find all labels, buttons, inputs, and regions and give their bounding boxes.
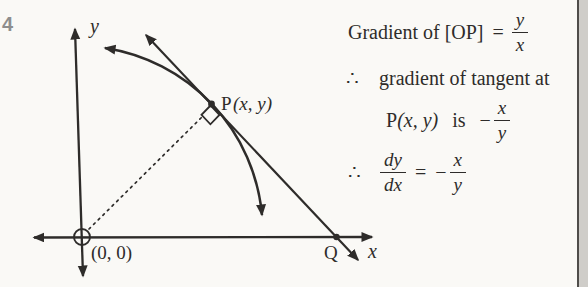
therefore-symbol: ∴	[346, 66, 359, 90]
tangent-line	[146, 35, 358, 260]
fraction-numerator: y	[512, 10, 528, 33]
p-label-name: P	[386, 109, 397, 132]
derivation-line-3: P (x, y) is − x y	[386, 95, 510, 145]
derivation-line-4: ∴ dy dx = − x y	[348, 147, 466, 197]
fraction-denominator: x	[512, 33, 528, 55]
gradient-op-text: Gradient of [OP]	[348, 21, 484, 44]
p-label-args: (x, y)	[397, 109, 438, 132]
fraction-x-over-y: x y	[494, 98, 510, 143]
gradient-tangent-text: gradient of tangent at	[379, 67, 550, 90]
equals-sign: =	[415, 161, 426, 184]
radius-op-dotted-line	[89, 115, 204, 229]
fraction-numerator: dy	[380, 150, 406, 173]
point-p-dot	[208, 101, 215, 108]
x-axis-label: x	[367, 240, 377, 262]
fraction-dy-over-dx: dy dx	[380, 150, 406, 195]
derivation-line-2: ∴ gradient of tangent at	[346, 64, 550, 92]
origin-label: (0, 0)	[91, 242, 132, 264]
fraction-denominator: y	[450, 173, 466, 195]
fraction-numerator: x	[450, 150, 466, 173]
scanned-textbook-page: 4 y x (0, 0) P (x, y) Q	[0, 0, 588, 287]
point-p-label-name: P	[221, 93, 232, 114]
page-edge-strip	[579, 0, 588, 287]
minus-sign: −	[435, 161, 446, 184]
therefore-symbol: ∴	[348, 160, 361, 184]
coordinate-diagram: y x (0, 0) P (x, y) Q	[0, 0, 400, 287]
fraction-denominator: dx	[380, 173, 406, 195]
fraction-x-over-y: x y	[450, 150, 466, 195]
is-text: is	[452, 109, 465, 132]
fraction-numerator: x	[494, 98, 510, 121]
point-p-label-args: (x, y)	[233, 93, 272, 115]
equals-sign: =	[493, 21, 504, 44]
fraction-denominator: y	[494, 121, 510, 143]
point-q-label: Q	[324, 242, 338, 263]
point-q-dot	[333, 234, 339, 240]
curve	[105, 48, 262, 215]
minus-sign: −	[480, 109, 491, 132]
derivation-line-1: Gradient of [OP] = y x	[348, 8, 528, 56]
x-axis	[34, 237, 372, 238]
y-axis-label: y	[88, 15, 99, 38]
y-axis	[75, 29, 83, 276]
fraction-y-over-x: y x	[512, 10, 528, 55]
